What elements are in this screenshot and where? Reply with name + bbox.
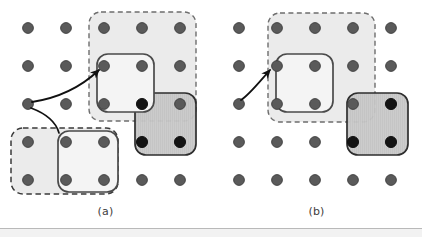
lattice-dot	[234, 61, 245, 72]
lattice-dot	[272, 175, 283, 186]
lattice-dot-dark	[385, 136, 396, 147]
lattice-dot	[99, 61, 110, 72]
panel-a	[11, 12, 196, 194]
lattice-dot	[310, 61, 321, 72]
lattice-dot	[348, 61, 359, 72]
lattice-dot	[61, 23, 72, 34]
lattice-dot	[23, 61, 34, 72]
panel-b	[234, 13, 408, 185]
lattice-dot	[99, 23, 110, 34]
lattice-dot	[272, 99, 283, 110]
lattice-dot	[272, 137, 283, 148]
lattice-dot	[99, 99, 110, 110]
lattice-dot	[61, 175, 72, 186]
panel-a-caption: (a)	[0, 205, 211, 218]
lattice-dot-dark	[136, 136, 147, 147]
lattice-dot-dark	[136, 98, 147, 109]
lattice-dot	[23, 175, 34, 186]
panel-b-solid-light-box-top	[276, 54, 333, 112]
lattice-dot	[175, 99, 186, 110]
lattice-dot-dark	[347, 136, 358, 147]
lattice-dot	[348, 99, 359, 110]
lattice-dot	[23, 23, 34, 34]
lattice-dot	[99, 137, 110, 148]
footer-band	[0, 229, 422, 237]
lattice-dot	[23, 137, 34, 148]
lattice-dot-anchor	[234, 99, 245, 110]
lattice-dot	[386, 175, 397, 186]
lattice-dot	[272, 23, 283, 34]
lattice-dot	[386, 61, 397, 72]
lattice-dot	[175, 175, 186, 186]
lattice-dot	[137, 61, 148, 72]
panel-b-arrow-to-top-box	[241, 70, 270, 100]
lattice-dot	[310, 137, 321, 148]
lattice-dot	[234, 23, 245, 34]
figure-canvas	[0, 0, 422, 237]
lattice-dot	[310, 175, 321, 186]
figure-root: (a) (b)	[0, 0, 422, 237]
lattice-dot	[310, 99, 321, 110]
lattice-dot	[99, 175, 110, 186]
lattice-dot-dark	[385, 98, 396, 109]
lattice-dot	[61, 61, 72, 72]
lattice-dot	[386, 23, 397, 34]
lattice-dot	[272, 61, 283, 72]
lattice-dot	[234, 175, 245, 186]
lattice-dot	[137, 23, 148, 34]
lattice-dot-dark	[174, 136, 185, 147]
lattice-dot	[61, 137, 72, 148]
lattice-dot	[348, 23, 359, 34]
lattice-dot	[348, 175, 359, 186]
lattice-dot	[234, 137, 245, 148]
panel-b-caption: (b)	[211, 205, 422, 218]
lattice-dot	[61, 99, 72, 110]
lattice-dot	[175, 61, 186, 72]
lattice-dot	[137, 175, 148, 186]
lattice-dot	[310, 23, 321, 34]
lattice-dot	[175, 23, 186, 34]
